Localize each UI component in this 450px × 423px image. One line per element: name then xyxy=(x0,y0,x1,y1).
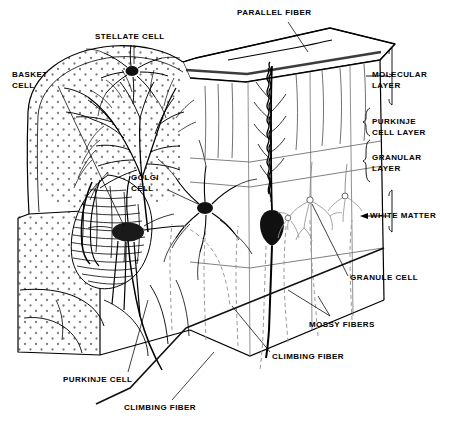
label-climbing-fiber-right: CLIMBING FIBER xyxy=(272,352,344,363)
label-purkinje-cell-layer: PURKINJE CELL LAYER xyxy=(372,116,426,138)
label-purkinje-cell: PURKINJE CELL xyxy=(63,375,132,386)
label-climbing-fiber-bottom: CLIMBING FIBER xyxy=(124,403,196,414)
label-granular-layer: GRANULAR LAYER xyxy=(372,152,421,174)
cerebellar-cortex-figure: PARALLEL FIBER STELLATE CELL BASKET CELL… xyxy=(0,0,450,423)
label-mossy-fibers: MOSSY FIBERS xyxy=(309,320,375,331)
label-stellate-cell: STELLATE CELL xyxy=(95,32,165,43)
label-white-matter: WHITE MATTER xyxy=(370,211,436,222)
label-golgi-cell: GÖLGI CELL xyxy=(131,172,159,194)
label-granule-cell: GRANULE CELL xyxy=(350,273,418,284)
label-molecular-layer: MOLECULAR LAYER xyxy=(372,69,427,91)
label-parallel-fiber: PARALLEL FIBER xyxy=(237,8,311,19)
label-basket-cell: BASKET CELL xyxy=(12,69,48,91)
